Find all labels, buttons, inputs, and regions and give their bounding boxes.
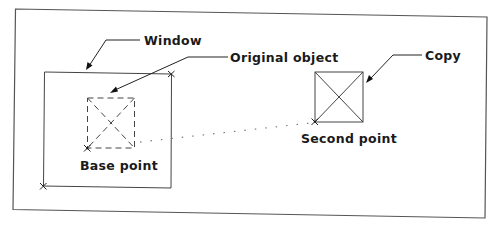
displacement-line (140, 123, 310, 142)
label-copy: Copy (425, 48, 461, 63)
label-window: Window (144, 33, 202, 48)
original-object (84, 98, 135, 152)
label-base-point: Base point (80, 158, 158, 173)
original-object-leader (110, 57, 228, 93)
copy-command-diagram: Window Original object Copy Base point S… (0, 0, 500, 226)
window-leader (86, 40, 140, 70)
arrowhead-icon (366, 75, 373, 83)
copy-object (312, 72, 364, 125)
label-second-point: Second point (301, 131, 397, 146)
copy-leader (366, 55, 422, 83)
arrowhead-icon (110, 87, 118, 94)
arrowhead-icon (86, 62, 93, 70)
label-original-object: Original object (230, 50, 338, 65)
